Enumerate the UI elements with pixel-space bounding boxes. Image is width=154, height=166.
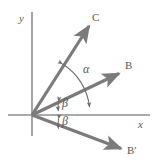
vector-diagram-figure: y x C B B′ α β β — [0, 0, 154, 166]
y-axis-label: y — [19, 13, 24, 24]
figure-canvas — [0, 0, 154, 166]
axis-group — [8, 12, 150, 136]
vector-group — [32, 26, 121, 149]
angle-label-beta-upper: β — [62, 97, 68, 109]
angle-label-alpha: α — [83, 63, 89, 75]
vector-b-prime-line — [32, 115, 121, 149]
vector-label-c: C — [92, 12, 99, 23]
vector-label-b: B — [125, 60, 132, 71]
angle-label-beta-lower: β — [62, 115, 68, 127]
vector-label-b-prime: B′ — [127, 145, 137, 156]
x-axis-label: x — [138, 119, 143, 130]
